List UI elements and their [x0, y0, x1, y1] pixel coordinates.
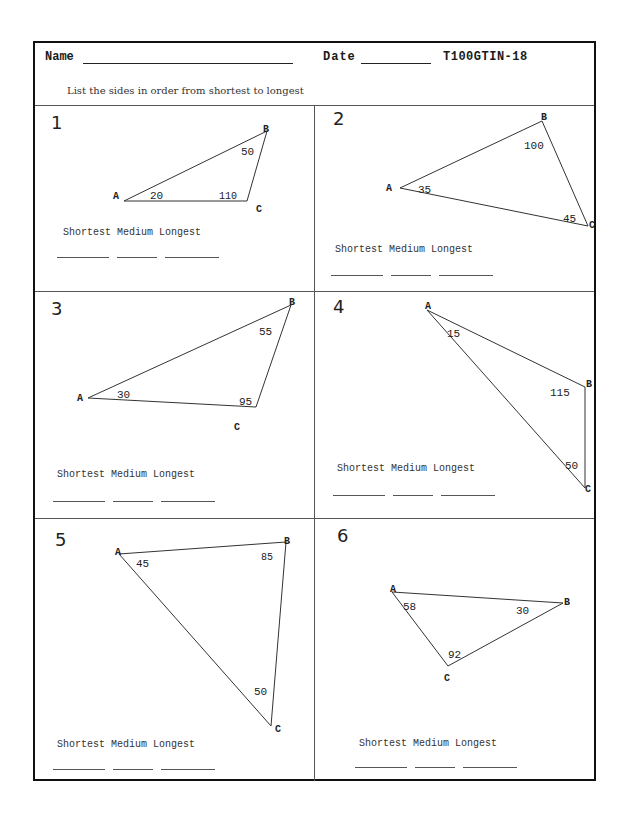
svg-text:C: C — [589, 220, 595, 231]
answer-blanks[interactable] — [53, 768, 215, 770]
problem-1: 1 A B C 20 50 110 ShortestMediumLongest — [35, 106, 314, 291]
shortest-blank[interactable] — [331, 274, 383, 276]
instructions: List the sides in order from shortest to… — [67, 85, 304, 96]
triangle-diagram: A B C 15 115 50 — [315, 292, 596, 518]
svg-text:85: 85 — [261, 552, 273, 563]
longest-blank[interactable] — [161, 768, 215, 770]
shortest-blank[interactable] — [53, 768, 105, 770]
name-label: Name — [45, 50, 74, 64]
worksheet: Name Date T100GTIN-18 List the sides in … — [33, 41, 596, 781]
answer-blanks[interactable] — [355, 766, 517, 768]
svg-text:45: 45 — [136, 558, 149, 570]
answer-labels: ShortestMediumLongest — [359, 738, 503, 749]
answer-labels: ShortestMediumLongest — [63, 227, 207, 238]
svg-text:B: B — [289, 297, 295, 308]
svg-text:C: C — [444, 673, 450, 684]
answer-labels: ShortestMediumLongest — [57, 739, 201, 750]
answer-labels: ShortestMediumLongest — [57, 469, 201, 480]
svg-text:15: 15 — [447, 328, 460, 340]
medium-blank[interactable] — [113, 500, 153, 502]
svg-text:A: A — [425, 301, 431, 312]
medium-blank[interactable] — [117, 256, 157, 258]
svg-text:B: B — [586, 379, 592, 390]
name-field[interactable] — [83, 63, 293, 64]
svg-text:30: 30 — [117, 389, 130, 401]
longest-blank[interactable] — [161, 500, 215, 502]
triangle-diagram: A B C 30 55 95 — [35, 292, 314, 518]
svg-text:58: 58 — [403, 601, 416, 613]
worksheet-header: Name Date T100GTIN-18 List the sides in … — [35, 43, 594, 106]
medium-blank[interactable] — [391, 274, 431, 276]
svg-text:A: A — [113, 191, 119, 202]
answer-blanks[interactable] — [53, 500, 215, 502]
svg-text:35: 35 — [418, 184, 431, 196]
worksheet-code: T100GTIN-18 — [443, 50, 528, 64]
svg-text:50: 50 — [565, 460, 578, 472]
longest-blank[interactable] — [165, 256, 219, 258]
problem-4: 4 A B C 15 115 50 ShortestMediumLongest — [315, 292, 596, 518]
date-field[interactable] — [361, 63, 431, 64]
problem-5: 5 A B C 45 85 50 ShortestMediumLongest — [35, 519, 314, 781]
svg-text:95: 95 — [239, 396, 252, 408]
svg-text:A: A — [390, 584, 396, 595]
svg-text:100: 100 — [524, 140, 544, 152]
svg-text:20: 20 — [150, 190, 163, 202]
problem-6: 6 A B C 58 30 92 ShortestMediumLongest — [315, 519, 596, 781]
date-label: Date — [323, 50, 356, 64]
longest-blank[interactable] — [439, 274, 493, 276]
medium-blank[interactable] — [113, 768, 153, 770]
svg-text:B: B — [284, 536, 290, 547]
svg-text:A: A — [386, 183, 392, 194]
longest-blank[interactable] — [441, 494, 495, 496]
svg-text:C: C — [234, 422, 240, 433]
longest-blank[interactable] — [463, 766, 517, 768]
medium-blank[interactable] — [415, 766, 455, 768]
svg-text:B: B — [263, 124, 269, 135]
medium-blank[interactable] — [393, 494, 433, 496]
svg-text:A: A — [115, 547, 121, 558]
svg-text:110: 110 — [219, 191, 237, 202]
answer-blanks[interactable] — [331, 274, 493, 276]
svg-text:B: B — [564, 597, 570, 608]
problem-3: 3 A B C 30 55 95 ShortestMediumLongest — [35, 292, 314, 518]
triangle-diagram: A B C 20 50 110 — [35, 106, 314, 291]
svg-text:45: 45 — [563, 213, 576, 225]
shortest-blank[interactable] — [355, 766, 407, 768]
shortest-blank[interactable] — [53, 500, 105, 502]
svg-text:50: 50 — [254, 686, 267, 698]
answer-labels: ShortestMediumLongest — [335, 244, 479, 255]
svg-text:30: 30 — [516, 605, 529, 617]
answer-blanks[interactable] — [333, 494, 495, 496]
svg-text:55: 55 — [259, 326, 272, 338]
svg-text:C: C — [585, 484, 591, 495]
answer-labels: ShortestMediumLongest — [337, 463, 481, 474]
shortest-blank[interactable] — [57, 256, 109, 258]
problem-2: 2 A B C 35 100 45 ShortestMediumLongest — [315, 106, 596, 291]
svg-text:C: C — [275, 724, 281, 735]
svg-text:50: 50 — [241, 146, 254, 158]
svg-text:115: 115 — [550, 387, 570, 399]
svg-text:A: A — [77, 393, 83, 404]
triangle-diagram: A B C 35 100 45 — [315, 106, 596, 291]
svg-text:B: B — [541, 112, 547, 123]
shortest-blank[interactable] — [333, 494, 385, 496]
svg-text:92: 92 — [448, 649, 461, 661]
answer-blanks[interactable] — [57, 256, 219, 258]
svg-text:C: C — [256, 204, 262, 215]
